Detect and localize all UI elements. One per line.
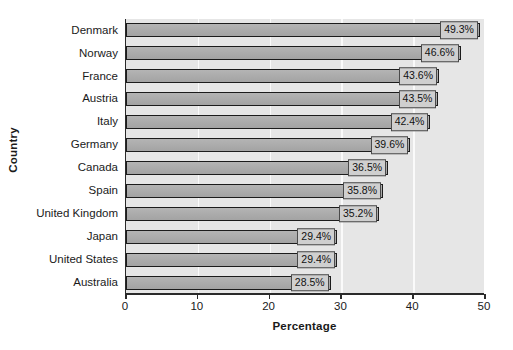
y-tick-label: France [14, 65, 121, 88]
x-tick-mark [484, 294, 486, 299]
x-axis-title: Percentage [125, 320, 484, 332]
plot-area: 49.3%46.6%43.6%43.5%42.4%39.6%36.5%35.8%… [125, 19, 484, 294]
bar[interactable]: 35.8% [126, 184, 383, 198]
bar[interactable]: 43.6% [126, 69, 439, 83]
x-tick-label: 0 [122, 300, 128, 312]
y-tick-label: Austria [14, 88, 121, 111]
y-tick-label: Italy [14, 111, 121, 134]
bar-value-label: 28.5% [291, 274, 329, 292]
bar[interactable]: 35.2% [126, 207, 379, 221]
bar-value-label: 35.2% [339, 205, 377, 223]
y-tick-label: United Kingdom [14, 202, 121, 225]
x-tick-label: 10 [190, 300, 203, 312]
x-tick-mark [340, 294, 342, 299]
bar-row: 28.5% [126, 271, 484, 294]
x-tick-label: 20 [262, 300, 275, 312]
bar[interactable]: 29.4% [126, 230, 337, 244]
bar[interactable]: 49.3% [126, 23, 480, 37]
x-tick-label: 40 [406, 300, 419, 312]
y-tick-label: Spain [14, 179, 121, 202]
bar[interactable]: 39.6% [126, 138, 410, 152]
bar-row: 46.6% [126, 42, 484, 65]
bar-value-label: 42.4% [391, 113, 429, 131]
x-tick-mark [125, 294, 127, 299]
bar[interactable]: 46.6% [126, 46, 461, 60]
y-tick-label: Canada [14, 157, 121, 180]
x-tick-mark [197, 294, 199, 299]
bar-row: 29.4% [126, 225, 484, 248]
x-tick-label: 30 [334, 300, 347, 312]
y-tick-label: Norway [14, 42, 121, 65]
bar-value-label: 49.3% [440, 22, 478, 40]
bar-value-label: 29.4% [297, 228, 335, 246]
bar-value-label: 39.6% [371, 136, 409, 154]
bar-row: 35.2% [126, 202, 484, 225]
y-tick-label: Denmark [14, 19, 121, 42]
bar[interactable]: 42.4% [126, 115, 430, 129]
bar-row: 49.3% [126, 19, 484, 42]
bar-row: 39.6% [126, 134, 484, 157]
bar-value-label: 36.5% [348, 159, 386, 177]
x-tick-label: 50 [478, 300, 491, 312]
bar-value-label: 29.4% [297, 251, 335, 269]
bar-row: 35.8% [126, 179, 484, 202]
bar[interactable]: 43.5% [126, 92, 438, 106]
bar[interactable]: 28.5% [126, 276, 331, 290]
bar-chart: Country DenmarkNorwayFranceAustriaItalyG… [0, 0, 513, 350]
bar[interactable]: 36.5% [126, 161, 388, 175]
bar-value-label: 46.6% [421, 45, 459, 63]
x-tick-mark [412, 294, 414, 299]
bar-row: 29.4% [126, 248, 484, 271]
x-axis-line [125, 293, 484, 295]
bar-value-label: 43.6% [399, 68, 437, 86]
y-tick-label: United States [14, 248, 121, 271]
bars-layer: 49.3%46.6%43.6%43.5%42.4%39.6%36.5%35.8%… [126, 19, 484, 294]
y-axis-tick-labels: DenmarkNorwayFranceAustriaItalyGermanyCa… [14, 19, 121, 294]
bar-row: 43.6% [126, 65, 484, 88]
bar[interactable]: 29.4% [126, 253, 337, 267]
bar-row: 36.5% [126, 157, 484, 180]
y-tick-label: Australia [14, 271, 121, 294]
bar-value-label: 43.5% [399, 90, 437, 108]
bar-row: 42.4% [126, 111, 484, 134]
y-tick-label: Japan [14, 225, 121, 248]
x-tick-mark [269, 294, 271, 299]
bar-row: 43.5% [126, 88, 484, 111]
bar-value-label: 35.8% [343, 182, 381, 200]
y-tick-label: Germany [14, 134, 121, 157]
